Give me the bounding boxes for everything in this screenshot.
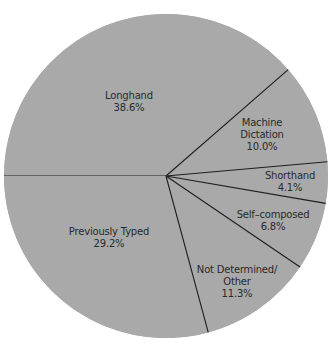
slice-label-self-composed: Self–composed6.8%	[237, 209, 310, 233]
slice-value-text: 10.0%	[240, 141, 283, 153]
slice-label-shorthand: Shorthand4.1%	[265, 170, 315, 194]
slice-label-text: Previously Typed	[69, 226, 149, 238]
slice-label-text: Self–composed	[237, 209, 310, 221]
slice-label-not-determined-other: Not Determined/Other11.3%	[197, 264, 277, 300]
slice-label-machine-dictation: MachineDictation10.0%	[240, 117, 283, 153]
slice-label-text: Machine	[240, 117, 283, 129]
slice-label-text: Shorthand	[265, 170, 315, 182]
slice-label-text: Dictation	[240, 129, 283, 141]
slice-label-previously-typed: Previously Typed29.2%	[69, 226, 149, 250]
slice-label-text: Other	[197, 276, 277, 288]
slice-value-text: 11.3%	[197, 288, 277, 300]
slice-value-text: 6.8%	[237, 221, 310, 233]
slice-value-text: 38.6%	[105, 102, 153, 114]
slice-value-text: 4.1%	[265, 182, 315, 194]
slice-label-longhand: Longhand38.6%	[105, 90, 153, 114]
slice-value-text: 29.2%	[69, 238, 149, 250]
slice-label-text: Longhand	[105, 90, 153, 102]
slice-label-text: Not Determined/	[197, 264, 277, 276]
